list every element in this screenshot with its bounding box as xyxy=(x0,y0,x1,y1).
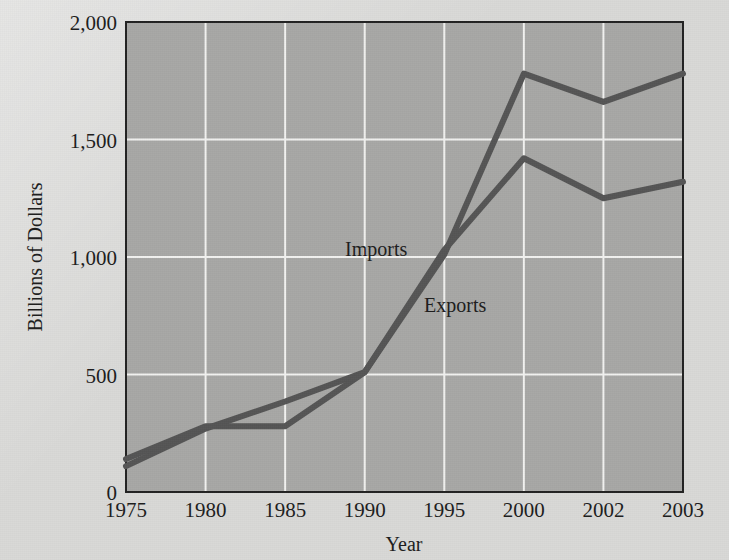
y-axis-tick-label: 1,500 xyxy=(70,129,117,153)
y-axis-tick-label: 500 xyxy=(86,364,118,388)
y-axis-tick-labels: 05001,0001,5002,000 xyxy=(70,11,117,505)
x-axis-tick-label: 1995 xyxy=(423,498,465,522)
y-axis-tick-label: 2,000 xyxy=(70,11,117,35)
y-axis-title: Billions of Dollars xyxy=(24,182,46,331)
x-axis-tick-label: 1985 xyxy=(264,498,306,522)
y-axis-tick-label: 1,000 xyxy=(70,246,117,270)
x-axis-tick-label: 1980 xyxy=(185,498,227,522)
x-axis-tick-label: 1990 xyxy=(344,498,386,522)
x-axis-tick-label: 2003 xyxy=(662,498,704,522)
imports-series-label: Imports xyxy=(345,238,407,261)
exports-series-label: Exports xyxy=(424,294,486,317)
x-axis-tick-label: 2000 xyxy=(503,498,545,522)
chart-figure: 05001,0001,5002,000 19751980198519901995… xyxy=(0,0,729,560)
x-axis-title: Year xyxy=(386,533,423,555)
x-axis-tick-labels: 19751980198519901995200020022003 xyxy=(105,498,704,522)
x-axis-tick-label: 2002 xyxy=(582,498,624,522)
line-chart: 05001,0001,5002,000 19751980198519901995… xyxy=(0,0,729,560)
x-axis-tick-label: 1975 xyxy=(105,498,147,522)
